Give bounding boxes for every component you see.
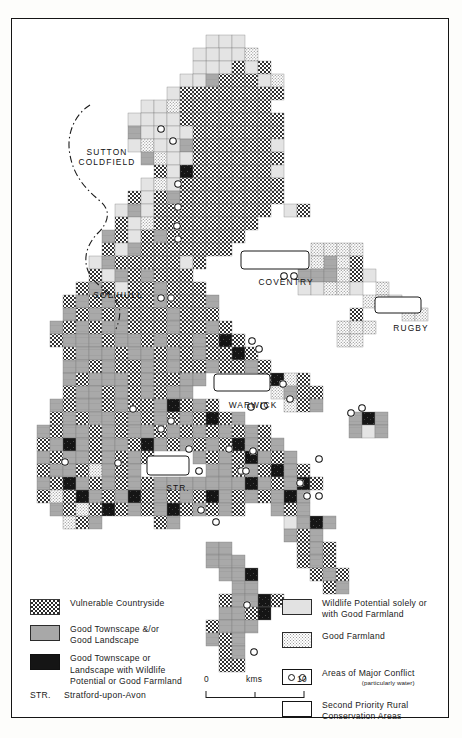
map-grid-cell[interactable] [63, 399, 76, 412]
map-grid-cell[interactable] [76, 425, 89, 438]
map-grid-cell[interactable] [115, 347, 128, 360]
map-grid-cell[interactable] [115, 334, 128, 347]
map-grid-cell[interactable] [232, 334, 245, 347]
map-grid-cell[interactable] [128, 451, 141, 464]
map-grid-cell[interactable] [115, 217, 128, 230]
map-grid-cell[interactable] [193, 243, 206, 256]
map-grid-cell[interactable] [193, 126, 206, 139]
map-grid-cell[interactable] [102, 425, 115, 438]
conflict-marker-icon[interactable] [225, 445, 233, 453]
map-grid-cell[interactable] [167, 308, 180, 321]
map-grid-cell[interactable] [219, 425, 232, 438]
map-grid-cell[interactable] [219, 490, 232, 503]
map-grid-cell[interactable] [63, 373, 76, 386]
map-grid-cell[interactable] [284, 529, 297, 542]
map-grid-cell[interactable] [375, 412, 388, 425]
map-grid-cell[interactable] [258, 360, 271, 373]
map-grid-cell[interactable] [232, 74, 245, 87]
map-grid-cell[interactable] [206, 100, 219, 113]
map-grid-cell[interactable] [167, 152, 180, 165]
map-grid-cell[interactable] [206, 126, 219, 139]
map-grid-cell[interactable] [362, 425, 375, 438]
map-grid-cell[interactable] [219, 542, 232, 555]
map-grid-cell[interactable] [76, 438, 89, 451]
map-grid-cell[interactable] [141, 490, 154, 503]
map-grid-cell[interactable] [206, 113, 219, 126]
map-grid-cell[interactable] [141, 503, 154, 516]
map-grid-cell[interactable] [89, 386, 102, 399]
map-grid-cell[interactable] [167, 503, 180, 516]
map-grid-cell[interactable] [154, 204, 167, 217]
conflict-marker-icon[interactable] [255, 345, 263, 353]
map-grid-cell[interactable] [310, 516, 323, 529]
map-grid-cell[interactable] [232, 126, 245, 139]
map-grid-cell[interactable] [310, 529, 323, 542]
map-grid-cell[interactable] [258, 100, 271, 113]
map-grid-cell[interactable] [128, 126, 141, 139]
map-grid-cell[interactable] [219, 178, 232, 191]
map-grid-cell[interactable] [167, 399, 180, 412]
conflict-marker-icon[interactable] [212, 518, 220, 526]
map-grid-cell[interactable] [76, 282, 89, 295]
map-grid-cell[interactable] [89, 451, 102, 464]
map-grid-cell[interactable] [337, 256, 350, 269]
map-grid-cell[interactable] [63, 308, 76, 321]
map-grid-cell[interactable] [128, 217, 141, 230]
map-grid-cell[interactable] [50, 438, 63, 451]
map-grid-cell[interactable] [167, 373, 180, 386]
map-grid-cell[interactable] [50, 503, 63, 516]
map-grid-cell[interactable] [219, 243, 232, 256]
map-grid-cell[interactable] [206, 464, 219, 477]
legend-item-good-townscape-landscape[interactable]: Good Townscape &/or Good Landscape [30, 624, 245, 646]
conflict-marker-icon[interactable] [303, 492, 311, 500]
map-grid-cell[interactable] [219, 347, 232, 360]
map-grid-cell[interactable] [337, 321, 350, 334]
map-grid-cell[interactable] [167, 100, 180, 113]
map-grid-cell[interactable] [219, 139, 232, 152]
map-grid-cell[interactable] [350, 308, 363, 321]
map-grid-cell[interactable] [258, 74, 271, 87]
map-grid-cell[interactable] [206, 152, 219, 165]
map-grid-cell[interactable] [63, 386, 76, 399]
map-grid-cell[interactable] [180, 282, 193, 295]
map-grid-cell[interactable] [376, 282, 389, 295]
map-grid-cell[interactable] [128, 269, 141, 282]
map-grid-cell[interactable] [128, 139, 141, 152]
map-grid-cell[interactable] [180, 269, 193, 282]
map-grid-cell[interactable] [271, 451, 284, 464]
map-grid-cell[interactable] [232, 35, 245, 48]
map-grid-cell[interactable] [89, 425, 102, 438]
map-grid-cell[interactable] [115, 503, 128, 516]
map-grid-cell[interactable] [37, 438, 50, 451]
map-grid-cell[interactable] [102, 477, 115, 490]
map-grid-cell[interactable] [180, 230, 193, 243]
map-grid-cell[interactable] [180, 100, 193, 113]
map-grid-cell[interactable] [206, 360, 219, 373]
map-grid-cell[interactable] [180, 360, 193, 373]
map-grid-cell[interactable] [323, 542, 336, 555]
map-grid-cell[interactable] [154, 516, 167, 529]
map-grid-cell[interactable] [206, 191, 219, 204]
map-grid-cell[interactable] [219, 113, 232, 126]
map-grid-cell[interactable] [206, 308, 219, 321]
map-grid-cell[interactable] [115, 321, 128, 334]
map-grid-cell[interactable] [297, 464, 310, 477]
map-grid-cell[interactable] [350, 282, 363, 295]
map-grid-cell[interactable] [232, 230, 245, 243]
map-grid-cell[interactable] [245, 425, 258, 438]
map-grid-cell[interactable] [232, 178, 245, 191]
map-grid-cell[interactable] [76, 321, 89, 334]
map-grid-cell[interactable] [89, 438, 102, 451]
map-grid-cell[interactable] [115, 373, 128, 386]
map-grid-cell[interactable] [337, 269, 350, 282]
map-grid-cell[interactable] [206, 243, 219, 256]
map-grid-cell[interactable] [206, 87, 219, 100]
map-grid-cell[interactable] [350, 243, 363, 256]
map-grid-cell[interactable] [89, 360, 102, 373]
map-grid-cell[interactable] [206, 204, 219, 217]
map-grid-cell[interactable] [206, 399, 219, 412]
map-grid-cell[interactable] [258, 139, 271, 152]
map-grid-cell[interactable] [76, 295, 89, 308]
map-grid-cell[interactable] [89, 412, 102, 425]
map-grid-cell[interactable] [180, 347, 193, 360]
